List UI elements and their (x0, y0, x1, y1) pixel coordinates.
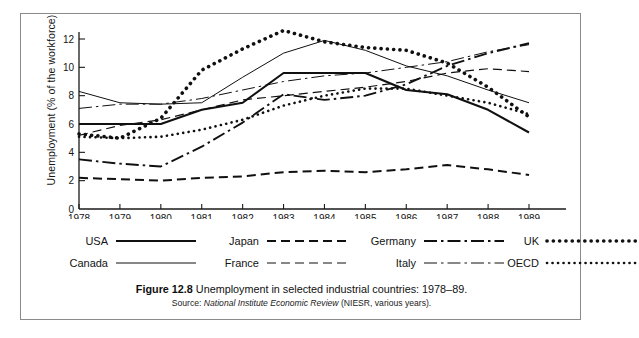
legend-label-uk: UK (524, 235, 545, 247)
x-tick-label: 1979 (109, 213, 132, 220)
x-tick-label: 1989 (518, 213, 541, 220)
x-tick-label: 1986 (395, 213, 418, 220)
y-tick-label: 10 (63, 62, 75, 73)
legend-swatch-france (265, 257, 349, 269)
legend-label-japan: Japan (229, 235, 265, 247)
chart-plot-area: Unemployment (% of the workforce) 024681… (21, 14, 582, 219)
legend-label-canada: Canada (69, 257, 114, 269)
x-tick-label: 1987 (436, 213, 459, 220)
caption-main: Figure 12.8 Unemployment in selected ind… (21, 282, 582, 296)
source-prefix: Source: (172, 298, 202, 308)
unemployment-line-chart: 0246810121978197919801981198219831984198… (21, 14, 582, 219)
legend-item-usa[interactable]: USA (63, 230, 198, 252)
y-tick-label: 12 (63, 34, 75, 45)
legend-label-usa: USA (85, 235, 114, 247)
x-tick-label: 1978 (68, 213, 91, 220)
series-line-oecd (79, 89, 529, 139)
legend-swatch-japan (265, 235, 349, 247)
legend-item-canada[interactable]: Canada (63, 252, 198, 274)
source-suffix: (NIESR, various years). (341, 298, 431, 308)
legend-item-oecd[interactable]: OECD (489, 252, 639, 274)
caption-source: Source: National Institute Economic Revi… (21, 297, 582, 309)
legend-label-oecd: OECD (507, 257, 545, 269)
y-tick-label: 8 (68, 90, 74, 101)
legend-swatch-usa (114, 235, 198, 247)
legend-row: CanadaFranceItalyOECD (21, 252, 582, 274)
x-tick-label: 1983 (272, 213, 295, 220)
legend-swatch-uk (545, 235, 639, 247)
legend-label-italy: Italy (396, 257, 422, 269)
y-tick-label: 6 (68, 119, 74, 130)
series-line-japan (79, 165, 529, 181)
legend-label-germany: Germany (371, 235, 422, 247)
series-line-usa (79, 73, 529, 133)
figure-caption: Figure 12.8 Unemployment in selected ind… (21, 282, 582, 309)
legend-item-uk[interactable]: UK (489, 230, 639, 252)
series-line-germany (79, 43, 529, 166)
legend-item-france[interactable]: France (214, 252, 349, 274)
legend-label-france: France (225, 257, 265, 269)
x-tick-label: 1988 (477, 213, 500, 220)
legend-swatch-canada (114, 257, 198, 269)
y-axis-label: Unemployment (% of the workforce) (45, 10, 57, 190)
x-tick-label: 1981 (191, 213, 214, 220)
legend-row: USAJapanGermanyUK (21, 230, 582, 252)
figure-container: Unemployment (% of the workforce) 024681… (20, 13, 581, 320)
y-tick-label: 4 (68, 147, 74, 158)
x-tick-label: 1984 (313, 213, 336, 220)
legend-item-italy[interactable]: Italy (351, 252, 506, 274)
x-tick-label: 1980 (150, 213, 173, 220)
caption-title: Unemployment in selected industrial coun… (196, 283, 467, 295)
y-tick-label: 2 (68, 175, 74, 186)
legend-item-germany[interactable]: Germany (351, 230, 506, 252)
legend-swatch-oecd (545, 257, 639, 269)
x-tick-label: 1985 (354, 213, 377, 220)
chart-legend: USAJapanGermanyUKCanadaFranceItalyOECD (21, 230, 582, 278)
caption-figure-number: Figure 12.8 (136, 283, 193, 295)
x-tick-label: 1982 (232, 213, 255, 220)
source-publication: National Institute Economic Review (204, 298, 339, 308)
legend-item-japan[interactable]: Japan (214, 230, 349, 252)
